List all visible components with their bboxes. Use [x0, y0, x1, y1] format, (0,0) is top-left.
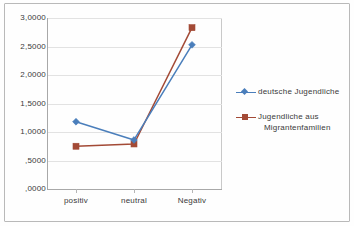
series-jugendliche-aus-migrantenfamilien [73, 25, 195, 150]
data-point [189, 25, 195, 31]
line-diamond-marker-icon [236, 87, 256, 98]
chart-legend: deutsche Jugendliche Jugendliche aus Mig… [236, 86, 352, 146]
data-point [73, 118, 80, 125]
chart-page: 3,0000 2,5000 2,0000 1,5000 1,0000 ,5000… [0, 0, 354, 226]
data-point [189, 41, 196, 48]
legend-entry-deutsche-jugendliche[interactable]: deutsche Jugendliche [236, 86, 352, 98]
line-square-marker-icon [236, 112, 256, 123]
legend-label-jugendliche-aus-migrantenfamilien: Jugendliche aus Migrantenfamilien [258, 111, 331, 133]
legend-entry-jugendliche-aus-migrantenfamilien[interactable]: Jugendliche aus Migrantenfamilien [236, 111, 352, 133]
data-point [73, 143, 79, 149]
line-chart: 3,0000 2,5000 2,0000 1,5000 1,0000 ,5000… [0, 0, 354, 226]
legend-label-deutsche-jugendliche: deutsche Jugendliche [258, 86, 339, 97]
